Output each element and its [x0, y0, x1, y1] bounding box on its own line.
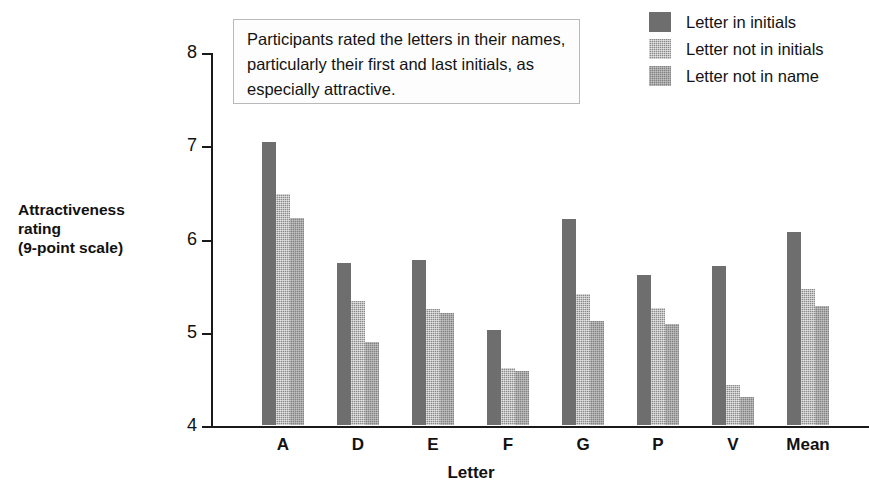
x-axis-tick-label-f: F: [468, 435, 548, 455]
bar[interactable]: [576, 294, 590, 425]
y-axis-title-line-1: Attractiveness: [18, 200, 168, 219]
bar[interactable]: [740, 397, 754, 425]
y-axis-tick: 8: [202, 53, 211, 55]
x-axis-tick-label-d: D: [318, 435, 398, 455]
bar[interactable]: [726, 385, 740, 425]
bar[interactable]: [712, 266, 726, 425]
x-axis-tick-label-v: V: [693, 435, 773, 455]
legend-item-label: Letter not in name: [686, 66, 819, 86]
x-axis-tick-label-a: A: [243, 435, 323, 455]
y-axis-tick-label: 6: [187, 229, 197, 249]
bar[interactable]: [787, 232, 801, 425]
bar-group-mean: [787, 52, 829, 425]
bar[interactable]: [801, 289, 815, 425]
x-axis-line: [211, 426, 869, 428]
y-axis-tick-label: 8: [187, 42, 197, 62]
bar-group-f: [487, 52, 529, 425]
plot-area: 87654 ADEFGPVMean: [211, 53, 869, 427]
bar[interactable]: [515, 371, 529, 425]
y-axis-tick: 6: [202, 240, 211, 242]
x-axis-tick-label-p: P: [618, 435, 698, 455]
series-0-swatch: [649, 12, 671, 32]
y-axis-tick: 5: [202, 333, 211, 335]
bar[interactable]: [337, 263, 351, 425]
bar[interactable]: [351, 301, 365, 425]
bar[interactable]: [262, 142, 276, 425]
x-axis-tick-label-mean: Mean: [768, 435, 848, 455]
y-axis-line: [211, 53, 213, 428]
x-axis-tick-label-e: E: [393, 435, 473, 455]
bar-group-g: [562, 52, 604, 425]
bar[interactable]: [487, 330, 501, 425]
series-1-swatch: [649, 39, 671, 59]
y-axis-tick-label: 4: [187, 415, 197, 435]
bar[interactable]: [651, 308, 665, 425]
x-axis-tick-label-g: G: [543, 435, 623, 455]
y-axis-tick-label: 7: [187, 135, 197, 155]
bar[interactable]: [665, 324, 679, 425]
x-axis-title: Letter: [211, 463, 731, 483]
bar[interactable]: [290, 218, 304, 425]
bar-group-e: [412, 52, 454, 425]
legend-item[interactable]: Letter not in initials: [649, 35, 869, 62]
bar[interactable]: [365, 342, 379, 425]
y-axis-tick: 7: [202, 146, 211, 148]
bar[interactable]: [501, 368, 515, 425]
bar[interactable]: [590, 321, 604, 425]
series-2-swatch: [649, 66, 671, 86]
y-axis-tick-label: 5: [187, 322, 197, 342]
bar[interactable]: [276, 194, 290, 425]
legend-item[interactable]: Letter in initials: [649, 8, 869, 35]
y-axis-tick: 4: [202, 426, 211, 428]
bar[interactable]: [426, 309, 440, 425]
legend-item[interactable]: Letter not in name: [649, 62, 869, 89]
y-axis-title-line-3: (9-point scale): [18, 238, 168, 257]
bar[interactable]: [815, 306, 829, 425]
bar[interactable]: [440, 313, 454, 425]
bar-group-d: [337, 52, 379, 425]
bar[interactable]: [637, 275, 651, 425]
y-axis-title: Attractiveness rating (9-point scale): [18, 200, 168, 257]
callout-textbox: Participants rated the letters in their …: [233, 19, 580, 104]
legend-item-label: Letter in initials: [686, 12, 796, 32]
bar[interactable]: [562, 219, 576, 425]
bar-group-p: [637, 52, 679, 425]
bar-group-a: [262, 52, 304, 425]
bar[interactable]: [412, 260, 426, 425]
bar-group-v: [712, 52, 754, 425]
legend: Letter in initialsLetter not in initials…: [649, 8, 869, 89]
legend-item-label: Letter not in initials: [686, 39, 824, 59]
y-axis-title-line-2: rating: [18, 219, 168, 238]
